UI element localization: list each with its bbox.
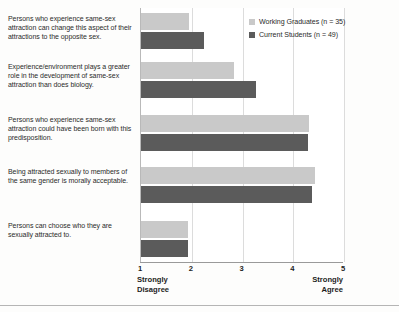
x-tick-label: 3 xyxy=(239,264,243,273)
grouped-bar-chart: Persons who experience same-sex attracti… xyxy=(0,0,399,312)
bar xyxy=(141,221,188,238)
bar xyxy=(141,13,189,30)
legend-item[interactable]: Current Students (n = 49) xyxy=(249,29,345,40)
legend-swatch-icon xyxy=(249,19,255,25)
bar xyxy=(141,167,315,184)
category-labels: Persons who experience same-sex attracti… xyxy=(0,0,139,262)
x-axis-line xyxy=(140,262,343,263)
page-divider xyxy=(0,305,399,306)
x-tick-label: 4 xyxy=(290,264,294,273)
category-label: Persons who experience same-sex attracti… xyxy=(8,14,136,41)
bar xyxy=(141,186,312,203)
x-tick-label: 5 xyxy=(341,264,345,273)
x-tick-label: 2 xyxy=(189,264,193,273)
legend: Working Graduates (n = 35) Current Stude… xyxy=(249,16,345,42)
category-label: Being attracted sexually to members of t… xyxy=(8,167,136,185)
legend-item-label: Current Students (n = 49) xyxy=(259,31,338,39)
bar xyxy=(141,115,309,132)
legend-swatch-icon xyxy=(249,32,255,38)
bar xyxy=(141,134,308,151)
legend-item[interactable]: Working Graduates (n = 35) xyxy=(249,16,345,27)
axis-high-label: Strongly Agree xyxy=(299,275,343,294)
legend-item-label: Working Graduates (n = 35) xyxy=(259,18,345,26)
x-tick-label: 1 xyxy=(138,264,142,273)
gridline xyxy=(344,8,345,262)
axis-low-label: Strongly Disagree xyxy=(137,275,169,294)
bar xyxy=(141,62,234,79)
bar xyxy=(141,240,188,257)
bar xyxy=(141,81,256,98)
category-label: Persons who experience same-sex attracti… xyxy=(8,115,136,142)
category-label: Experience/environment plays a greater r… xyxy=(8,62,136,89)
category-label: Persons can choose who they are sexually… xyxy=(8,221,136,239)
bar xyxy=(141,32,204,49)
plot-area xyxy=(140,8,344,262)
